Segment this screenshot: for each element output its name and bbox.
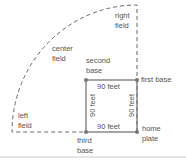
right-field-label: right field [115, 11, 130, 31]
third-base-line2: base [77, 146, 93, 156]
distance-left-label: 90 feet [88, 91, 97, 121]
first-base-label: first base [141, 75, 171, 85]
center-field-line1: center [52, 44, 73, 54]
third-base-line1: third [77, 136, 93, 146]
second-base-line2: base [86, 66, 110, 76]
home-plate-marker [135, 130, 139, 134]
left-field-label: left field [18, 111, 32, 131]
distance-bottom-label: 90 feet [97, 122, 120, 132]
center-field-label: center field [52, 44, 73, 64]
second-base-line1: second [86, 56, 110, 66]
third-base-label: third base [77, 136, 93, 156]
distance-right-label: 90 feet [127, 91, 136, 121]
distance-top-label: 90 feet [97, 82, 120, 92]
third-base-marker [84, 130, 88, 134]
right-field-line2: field [115, 21, 130, 31]
left-field-line2: field [18, 121, 32, 131]
right-field-line1: right [115, 11, 130, 21]
home-plate-label: home plate [142, 124, 161, 144]
first-base-marker [135, 78, 139, 82]
second-base-label: second base [86, 56, 110, 76]
home-plate-line1: home [142, 124, 161, 134]
second-base-marker [84, 78, 88, 82]
left-field-line1: left [18, 111, 32, 121]
home-plate-line2: plate [142, 134, 161, 144]
center-field-line2: field [52, 54, 73, 64]
